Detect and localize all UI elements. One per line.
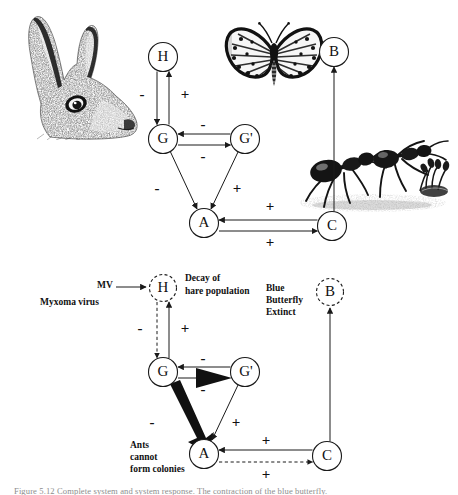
panel-undisturbed-system: H G G' A C B - + [0,0,458,258]
node-A[interactable]: A [190,209,219,238]
sign-G-H: + [181,320,190,336]
mv-source-label: MV [97,280,113,290]
node-B[interactable]: B [317,279,344,306]
ants-colonies-label-line1: Ants [130,440,149,450]
ants-colonies-label-line3: form colonies [130,464,185,474]
edge-G-to-A [171,152,198,209]
hare-decay-label-line1: Decay of [185,273,221,283]
node-A-label: A [199,214,210,230]
node-B[interactable]: B [320,38,349,67]
butterfly-extinct-label-line3: Extinct [266,307,296,317]
node-A-label: A [199,445,210,461]
node-H-label: H [158,279,169,295]
node-H[interactable]: H [150,275,177,302]
sign-H-G: - [138,320,143,336]
node-Gprime-label: G' [239,130,253,146]
node-B-label: B [329,43,339,59]
sign-G-Gp: - [201,381,206,397]
sign-C-A: + [262,432,271,448]
node-B-label: B [325,283,335,299]
node-A[interactable]: A [190,440,219,469]
node-Gprime[interactable]: G' [231,125,260,154]
node-C[interactable]: C [318,212,347,241]
node-G[interactable]: G [149,358,178,387]
node-C-label: C [327,217,337,233]
sign-C-A: + [266,198,275,214]
node-Gprime-label: G' [239,363,253,379]
sign-Gp-G: - [201,350,206,366]
sign-A-C: + [266,234,275,250]
butterfly-extinct-label-line2: Butterfly [266,295,303,305]
figure-container: H G G' A C B - + [0,0,458,495]
sign-Gp-G: - [201,116,206,132]
node-G[interactable]: G [149,125,178,154]
hare-decay-label-line2: hare population [185,286,250,296]
sign-G-A: - [150,414,155,430]
edge-Gp-to-A [212,385,238,440]
node-C[interactable]: C [313,442,342,471]
digraph-top: H G G' A C B - + [0,0,458,258]
sign-G-Gp: - [201,148,206,164]
sign-Gp-A: + [232,414,241,430]
node-C-label: C [322,447,332,463]
node-G-label: G [158,363,169,379]
sign-G-H: + [181,86,190,102]
butterfly-extinct-label-line1: Blue [266,283,284,293]
figure-caption: Figure 5.12 Complete system and system r… [14,486,444,495]
digraph-bottom: H G G' A C B - + [0,258,458,495]
ants-colonies-label-line2: cannot [130,452,158,462]
sign-A-C: + [262,466,271,482]
panel-perturbed-system: H G G' A C B - + [0,258,458,495]
sign-H-G: - [140,86,145,102]
node-H-label: H [158,48,169,64]
node-G-label: G [158,130,169,146]
node-Gprime[interactable]: G' [231,358,260,387]
sign-Gp-A: + [233,180,242,196]
node-H[interactable]: H [149,43,178,72]
myxoma-virus-label: Myxoma virus [40,297,99,307]
sign-G-A: - [155,180,160,196]
